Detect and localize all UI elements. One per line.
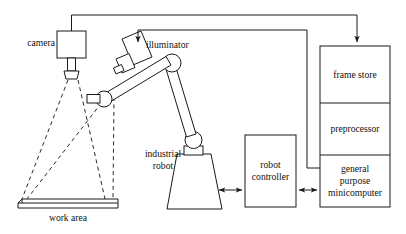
camera-label: camera [27,37,55,48]
work-area-slab [18,199,118,208]
illuminator-light-cone [27,97,114,199]
industrial-robot-label-line1: industrial [145,148,182,159]
industrial-robot-assembly [87,54,222,209]
minicomputer-label-line1: general [341,163,370,174]
minicomputer-label-line2: purpose [340,175,370,186]
robot-controller-label-line2: controller [252,171,290,182]
camera-assembly [57,31,86,79]
work-area-label: work area [49,212,88,223]
industrial-robot-label-line2: robot [153,160,174,171]
illuminator-assembly [114,31,153,74]
connector-camera-to-frame-store [72,15,358,42]
minicomputer-label-line3: minicomputer [328,187,383,198]
preprocessor-label: preprocessor [330,123,380,134]
frame-store-label: frame store [333,69,376,80]
diagram-canvas: camera illuminator industrial robot work… [0,0,406,234]
machine-vision-diagram: camera illuminator industrial robot work… [0,0,406,234]
robot-controller-label-line1: robot [260,159,281,170]
illuminator-label: illuminator [146,39,189,50]
